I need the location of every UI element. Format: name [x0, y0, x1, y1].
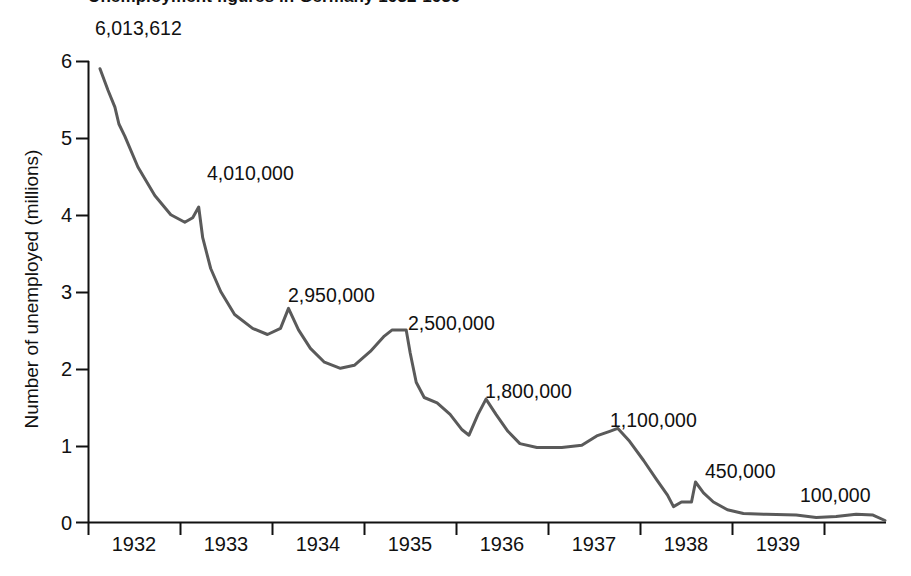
- plot-area: [0, 0, 911, 576]
- x-tick-marks: [89, 522, 825, 535]
- unemployment-series-line: [100, 69, 885, 521]
- y-tick-marks: [76, 62, 89, 523]
- unemployment-line-chart: Unemployment figures in Germany 1932-193…: [0, 0, 911, 576]
